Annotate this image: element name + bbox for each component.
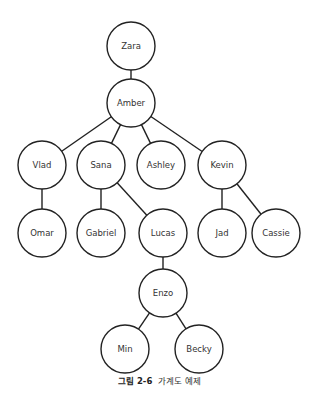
- node-label: Omar: [30, 228, 54, 238]
- node-sana: Sana: [77, 141, 125, 189]
- node-label: Vlad: [33, 160, 52, 170]
- node-gabriel: Gabriel: [77, 209, 125, 257]
- node-cassie: Cassie: [252, 209, 300, 257]
- node-label: Ashley: [147, 160, 175, 170]
- figure-caption-text: 가계도 예제: [158, 376, 201, 386]
- tree-nodes: ZaraAmberVladSanaAshleyKevinOmarGabrielL…: [18, 22, 300, 373]
- node-ashley: Ashley: [137, 141, 185, 189]
- edge-enzo-min: [138, 313, 149, 329]
- node-omar: Omar: [18, 209, 66, 257]
- node-label: Jad: [214, 228, 228, 238]
- node-enzo: Enzo: [139, 269, 187, 317]
- node-becky: Becky: [175, 325, 223, 373]
- node-kevin: Kevin: [198, 141, 246, 189]
- node-amber: Amber: [107, 79, 155, 127]
- node-zara: Zara: [107, 22, 155, 70]
- node-label: Amber: [117, 98, 146, 108]
- node-vlad: Vlad: [18, 141, 66, 189]
- node-label: Zara: [121, 41, 141, 51]
- figure-number: 그림 2-6: [118, 376, 152, 386]
- node-label: Sana: [90, 160, 111, 170]
- node-label: Min: [117, 344, 132, 354]
- edge-sana-lucas: [117, 183, 147, 216]
- node-label: Kevin: [210, 160, 233, 170]
- family-tree-diagram: ZaraAmberVladSanaAshleyKevinOmarGabrielL…: [0, 0, 319, 406]
- node-lucas: Lucas: [139, 209, 187, 257]
- figure-caption: 그림 2-6가계도 예제: [0, 374, 319, 386]
- edge-enzo-becky: [176, 313, 186, 329]
- edge-kevin-cassie: [237, 184, 261, 214]
- node-jad: Jad: [198, 209, 246, 257]
- node-label: Becky: [186, 344, 211, 354]
- edge-amber-sana: [111, 125, 120, 144]
- node-label: Cassie: [262, 228, 290, 238]
- node-label: Enzo: [153, 288, 173, 298]
- node-label: Lucas: [151, 228, 176, 238]
- edge-amber-ashley: [141, 125, 150, 144]
- node-min: Min: [101, 325, 149, 373]
- node-label: Gabriel: [86, 228, 117, 238]
